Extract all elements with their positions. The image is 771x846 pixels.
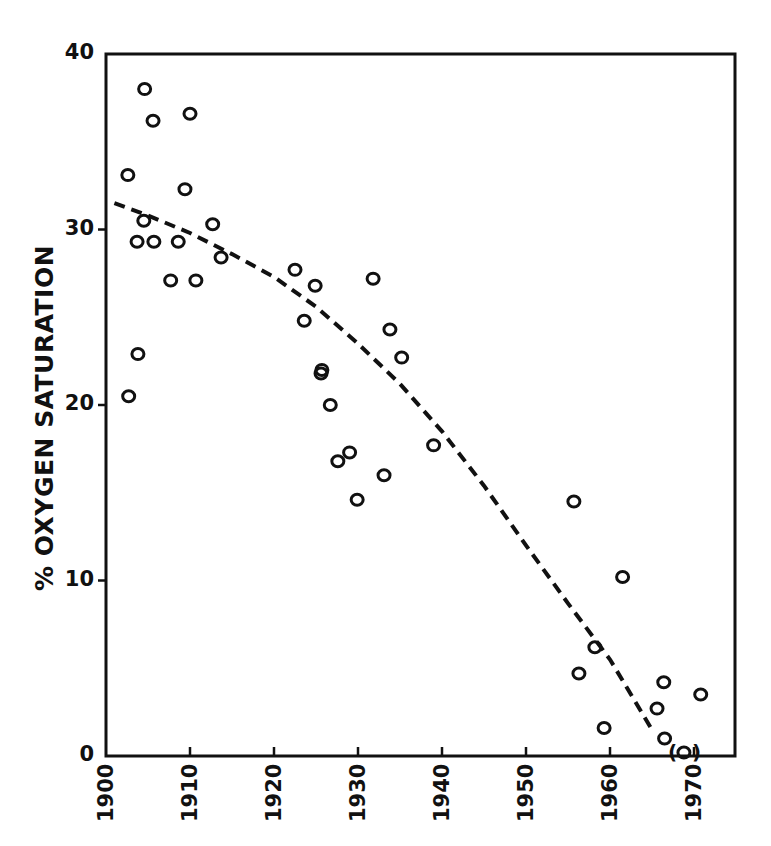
data-points: () — [122, 84, 707, 765]
y-axis-label: % OXYGEN SATURATION — [30, 245, 59, 591]
data-point-marker — [132, 349, 144, 360]
y-tick-label: 40 — [54, 40, 94, 64]
data-point-marker — [139, 84, 151, 95]
data-point-marker — [344, 447, 356, 458]
data-point-marker — [332, 456, 344, 467]
x-tick-label: 1950 — [514, 764, 538, 822]
axis-ticks — [98, 230, 694, 757]
data-point-marker — [651, 703, 663, 714]
data-point-marker — [367, 273, 379, 284]
x-tick-label: 1930 — [346, 764, 370, 822]
x-tick-label: 1910 — [178, 764, 202, 822]
data-point-marker — [207, 219, 219, 230]
x-tick-label: 1960 — [598, 764, 622, 822]
data-point-marker — [138, 215, 150, 226]
data-point-marker — [148, 236, 160, 247]
data-point-marker — [289, 264, 301, 275]
data-point-marker — [123, 391, 135, 402]
x-tick-label: 1970 — [682, 764, 706, 822]
parenthesis-mark: ( — [668, 740, 677, 764]
data-point-marker — [190, 275, 202, 286]
y-tick-label: 20 — [54, 391, 94, 415]
data-point-marker — [598, 722, 610, 733]
y-tick-label: 0 — [54, 742, 94, 766]
scatter-plot: () — [0, 0, 771, 846]
data-point-marker — [309, 280, 321, 291]
data-point-marker — [122, 170, 134, 181]
data-point-marker — [428, 440, 440, 451]
data-point-marker — [172, 236, 184, 247]
data-point-marker — [658, 677, 670, 688]
data-point-marker — [568, 496, 580, 507]
trend-line — [114, 203, 652, 730]
data-point-marker — [298, 315, 310, 326]
y-tick-label: 30 — [54, 216, 94, 240]
data-point-marker — [179, 184, 191, 195]
data-point-marker — [396, 352, 408, 363]
x-tick-label: 1920 — [262, 764, 286, 822]
data-point-marker — [384, 324, 396, 335]
data-point-marker — [215, 252, 227, 263]
x-tick-label: 1940 — [430, 764, 454, 822]
data-point-marker — [184, 108, 196, 119]
data-point-marker — [378, 470, 390, 481]
data-point-marker — [324, 400, 336, 411]
x-tick-label: 1900 — [94, 764, 118, 822]
data-point-marker — [351, 494, 363, 505]
plot-frame — [106, 54, 735, 756]
data-point-marker — [573, 668, 585, 679]
data-point-marker — [695, 689, 707, 700]
data-point-marker — [131, 236, 143, 247]
data-point-marker — [617, 571, 629, 582]
data-point-marker — [147, 115, 159, 126]
data-point-marker — [165, 275, 177, 286]
parenthesis-mark: ) — [692, 740, 701, 764]
y-tick-label: 10 — [54, 567, 94, 591]
